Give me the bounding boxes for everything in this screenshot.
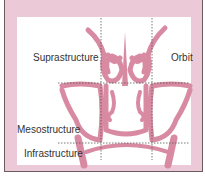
label-orbit: Orbit [171, 53, 193, 63]
label-suprastructure: Suprastructure [33, 53, 99, 63]
sinus-structure [62, 28, 190, 165]
label-infrastructure: Infrastructure [24, 149, 83, 159]
label-mesostructure: Mesostructure [17, 125, 80, 135]
nasal-septum [122, 32, 128, 86]
